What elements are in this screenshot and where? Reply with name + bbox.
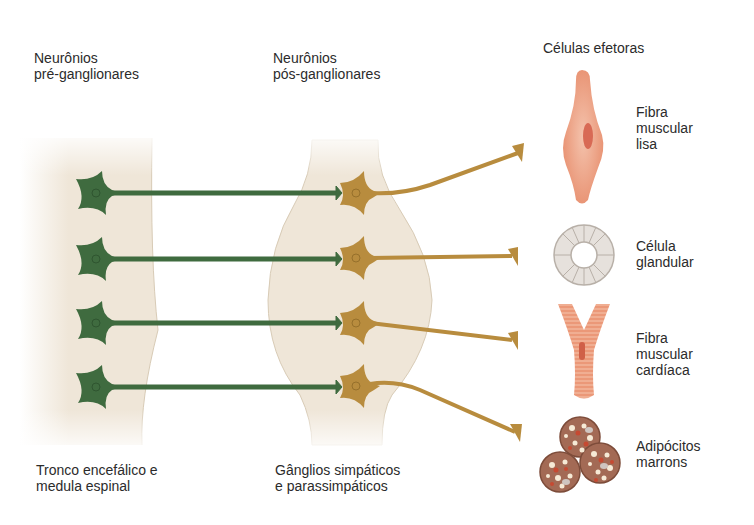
brown-adipocytes	[540, 417, 620, 492]
cardiac-muscle-cell	[558, 304, 610, 399]
smooth-muscle-label: Fibra muscular lisa	[636, 104, 693, 152]
smooth-muscle-cell	[563, 70, 603, 204]
gland-cell-label: Célula glandular	[636, 238, 694, 270]
preganglionic-header: Neurônios pré-ganglionares	[34, 50, 139, 82]
brown-adipocytes-label: Adipócitos marrons	[636, 438, 701, 470]
gland-cell	[554, 225, 614, 285]
ganglia-footer: Gânglios simpáticos e parassimpáticos	[275, 462, 400, 494]
cardiac-muscle-label: Fibra muscular cardíaca	[636, 330, 693, 378]
effector-cells-header: Células efetoras	[543, 40, 644, 56]
cns-footer: Tronco encefálico e medula espinal	[36, 462, 158, 494]
postganglionic-terminals	[508, 143, 524, 442]
postganglionic-header: Neurônios pós-ganglionares	[273, 50, 380, 82]
ganglion-tissue	[260, 130, 440, 455]
